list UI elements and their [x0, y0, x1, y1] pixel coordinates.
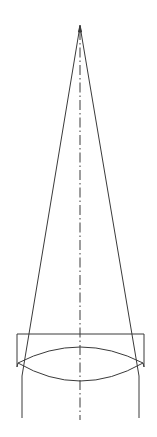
left-converging-ray: [22, 26, 80, 418]
right-converging-ray: [80, 26, 139, 418]
diagram-canvas: [0, 0, 157, 437]
apex-point: [79, 25, 82, 32]
lens-diagram: [0, 0, 157, 437]
